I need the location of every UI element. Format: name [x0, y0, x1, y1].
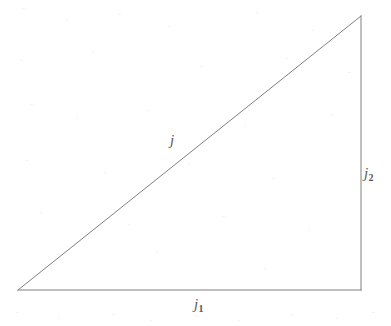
- vertical-leg-label-subscript: 2: [368, 172, 373, 183]
- right-triangle-graphic: [0, 0, 391, 326]
- figure-canvas: j j2 j1: [0, 0, 391, 326]
- horizontal-leg-label: j1: [194, 296, 203, 314]
- hypotenuse-label-variable: j: [170, 132, 174, 148]
- hypotenuse-label: j: [170, 132, 174, 150]
- horizontal-leg-label-subscript: 1: [198, 303, 203, 314]
- vertical-leg-label: j2: [364, 165, 373, 183]
- hypotenuse-line: [18, 16, 361, 290]
